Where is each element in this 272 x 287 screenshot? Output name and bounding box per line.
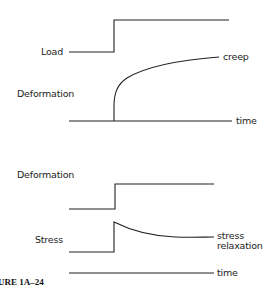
creep-curve — [114, 57, 219, 121]
time-label-bottom: time — [217, 268, 238, 278]
figure-caption: URE 1A–24 — [0, 277, 44, 287]
load-label: Load — [41, 47, 63, 57]
deformation-label-top: Deformation — [17, 89, 74, 99]
creep-label: creep — [223, 52, 249, 62]
deformation-step-curve — [69, 184, 214, 209]
stress-relaxation-label-line2: relaxation — [217, 241, 263, 251]
stress-label: Stress — [35, 235, 63, 245]
load-step-curve — [69, 20, 229, 52]
stress-relaxation-curve — [69, 222, 214, 252]
deformation-label-bottom: Deformation — [17, 170, 74, 180]
time-label-top: time — [236, 116, 257, 126]
